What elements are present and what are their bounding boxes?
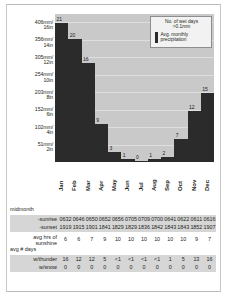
legend-precip-line2: precipitation	[161, 37, 189, 42]
precipitation-bar	[161, 157, 174, 162]
table-cell: 1	[164, 255, 177, 264]
y-tick-in: 2in	[6, 147, 53, 152]
table-cell: 0	[164, 263, 177, 272]
sunshine-cell: 10	[138, 235, 151, 244]
precipitation-bar	[55, 23, 68, 162]
page-rule-top	[6, 4, 221, 5]
month-label-text: Apr	[98, 181, 104, 191]
table-cell: 0	[72, 263, 85, 272]
month-label-oct: Oct	[174, 165, 187, 193]
table-cell: 0	[151, 263, 164, 272]
table-cell: 0611	[190, 215, 203, 224]
precipitation-bar	[148, 159, 161, 162]
table-cell: 5	[177, 255, 190, 264]
table-cell: 0656	[111, 215, 124, 224]
table-row-values: 1612125<1<1<1<1151316	[59, 255, 216, 264]
table-cell: 5	[98, 255, 111, 264]
month-label-text: May	[111, 179, 117, 191]
table-cell: 1852	[190, 223, 203, 232]
precipitation-bar	[95, 124, 108, 162]
table-group-sunshine: avg hrs of sunshine 667910101010101097	[10, 235, 216, 244]
y-tick-in: 12in	[6, 60, 53, 65]
table-cell: 0700	[151, 215, 164, 224]
page-rule-bottom	[6, 291, 221, 292]
table-row-label: w/thunder	[10, 255, 57, 264]
table-cell: 0	[98, 263, 111, 272]
legend-wet-days-line2: >0.1mm	[154, 24, 209, 29]
table-cell: 1843	[177, 223, 190, 232]
month-label-text: Jul	[138, 182, 144, 191]
table-row: -sunset191919151901184118291829183618421…	[10, 223, 216, 232]
legend-precip-text: Avg. monthly precipitation	[161, 32, 189, 42]
table-row-label: -sunrise	[10, 215, 57, 224]
table-row-values: 0632064606500652065607050709070006410622…	[59, 215, 216, 224]
month-label-text: Feb	[71, 180, 77, 191]
month-label-aug: Aug	[148, 165, 161, 193]
table-cell: <1	[138, 255, 151, 264]
precipitation-bar	[201, 93, 214, 162]
month-label-text: Mar	[85, 180, 91, 191]
y-axis-tick-label: 254mm/10in	[6, 72, 53, 83]
legend-precip-swatch-icon	[155, 32, 158, 43]
table-cell: 1829	[111, 223, 124, 232]
month-label-apr: Apr	[95, 165, 108, 193]
table-cell: 1829	[124, 223, 137, 232]
table-row-thunder: w/thunder1612125<1<1<1<1151316	[10, 255, 216, 264]
table-cell: <1	[151, 255, 164, 264]
legend-precip-entry: Avg. monthly precipitation	[154, 32, 209, 44]
precipitation-bar	[68, 39, 81, 162]
month-label-jun: Jun	[121, 165, 134, 193]
table-row-snow: w/snow000000000000	[10, 263, 216, 272]
table-cell: 0622	[177, 215, 190, 224]
table-cell: 0	[138, 263, 151, 272]
table-cell: 1915	[72, 223, 85, 232]
month-label-text: Sep	[164, 180, 170, 191]
sunshine-cell: 7	[203, 235, 216, 244]
table-row-label: -sunset	[10, 223, 57, 232]
month-label-text: Jan	[58, 181, 64, 191]
table-cell: <1	[124, 255, 137, 264]
y-tick-in: 6in	[6, 112, 53, 117]
table-cell: 0	[124, 263, 137, 272]
climate-data-table: midmonth -sunrise06320646065006520656070…	[10, 206, 216, 272]
table-row-sunshine: avg hrs of sunshine 667910101010101097	[10, 235, 216, 244]
y-tick-in: 16in	[6, 25, 53, 30]
month-label-text: Aug	[151, 179, 157, 191]
table-cell: <1	[111, 255, 124, 264]
chart-legend: No. of wet days >0.1mm Avg. monthly prec…	[150, 16, 212, 48]
month-label-jul: Jul	[135, 165, 148, 193]
table-row: -sunrise06320646065006520656070507090700…	[10, 215, 216, 224]
table-cell: 0709	[138, 215, 151, 224]
table-cell: 0705	[124, 215, 137, 224]
table-cell: 12	[72, 255, 85, 264]
sunshine-cell: 10	[177, 235, 190, 244]
precipitation-bar	[135, 161, 148, 162]
precipitation-bar	[188, 111, 201, 162]
table-cell: 1842	[151, 223, 164, 232]
y-axis-tick-label: 356mm/14in	[6, 37, 53, 48]
table-sun-rows: -sunrise06320646065006520656070507090700…	[10, 215, 216, 232]
precipitation-bar	[82, 63, 95, 162]
precipitation-bar	[108, 152, 121, 162]
sunshine-row-label: avg hrs of sunshine	[10, 234, 57, 246]
sunshine-cell: 6	[59, 235, 72, 244]
table-cell: 0	[111, 263, 124, 272]
table-cell: 0641	[164, 215, 177, 224]
month-label-text: Nov	[191, 180, 197, 191]
month-label-sep: Sep	[161, 165, 174, 193]
month-label-dec: Dec	[201, 165, 214, 193]
sunshine-cell: 10	[124, 235, 137, 244]
table-cell: 0	[190, 263, 203, 272]
wet-days-value-label: 16	[83, 57, 97, 62]
table-cell: 0650	[85, 215, 98, 224]
table-group-days: avg # days w/thunder1612125<1<1<1<115131…	[10, 246, 216, 272]
midmonth-header-label: midmonth	[10, 206, 57, 213]
days-header-label: avg # days	[10, 246, 57, 253]
y-tick-in: 10in	[6, 78, 53, 83]
climate-chart-page: 51mm/2in102mm/4in152mm/6in203mm/8in254mm…	[0, 0, 227, 300]
month-label-feb: Feb	[68, 165, 81, 193]
month-label-nov: Nov	[188, 165, 201, 193]
y-tick-in: 4in	[6, 130, 53, 135]
table-cell: 1843	[164, 223, 177, 232]
y-axis-tick-label: 305mm/12in	[6, 55, 53, 66]
